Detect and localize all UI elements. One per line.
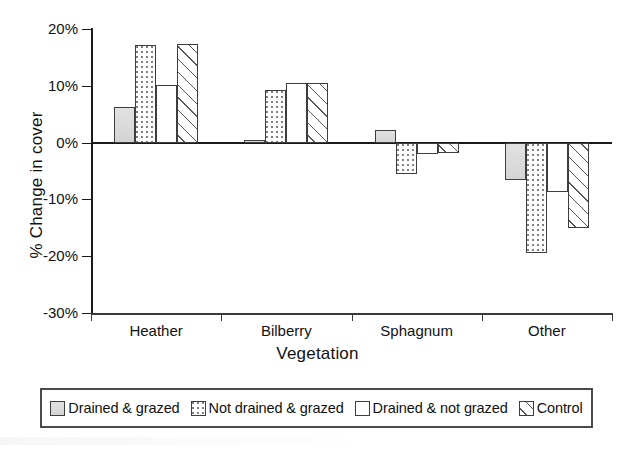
legend-item[interactable]: Drained & grazed: [50, 400, 179, 416]
legend-swatch-icon: [191, 401, 206, 416]
x-axis-tick: [221, 313, 222, 321]
bar: [547, 143, 568, 192]
y-axis-title: % Change in cover: [27, 70, 47, 300]
y-axis-tick-label: 0%: [6, 134, 78, 151]
y-axis-tick: [82, 143, 91, 144]
bar: [156, 85, 177, 143]
legend-swatch-icon: [355, 401, 370, 416]
bar: [438, 143, 459, 154]
x-axis-tick: [352, 313, 353, 321]
y-axis-tick-label: 10%: [6, 77, 78, 94]
figure-bar-chart: % Change in cover 20%10%0%-10%-20%-30% H…: [0, 0, 635, 452]
bar: [135, 45, 156, 143]
legend-item[interactable]: Not drained & grazed: [191, 400, 344, 416]
legend-label: Control: [537, 400, 583, 416]
scan-artifact: [0, 437, 635, 445]
y-axis-tick: [82, 86, 91, 87]
x-axis-tick: [612, 313, 613, 321]
bar: [177, 44, 198, 142]
chart-plot-area: % Change in cover 20%10%0%-10%-20%-30% H…: [0, 0, 635, 378]
y-axis-line: [91, 28, 93, 315]
y-axis-tick: [82, 313, 91, 314]
legend-label: Not drained & grazed: [209, 400, 344, 416]
y-axis-tick: [82, 29, 91, 30]
bar: [114, 107, 135, 142]
x-axis-tick: [91, 313, 92, 321]
x-axis-category-label: Sphagnum: [352, 322, 482, 339]
bar: [244, 140, 265, 143]
legend-label: Drained & grazed: [68, 400, 179, 416]
x-axis-category-label: Bilberry: [221, 322, 351, 339]
bar: [417, 143, 438, 154]
x-axis-category-label: Heather: [91, 322, 221, 339]
y-axis-tick-label: -30%: [6, 304, 78, 321]
bar: [375, 130, 396, 143]
bar: [526, 143, 547, 254]
legend-swatch-icon: [50, 401, 65, 416]
bar: [265, 90, 286, 143]
bar: [307, 83, 328, 143]
bar: [568, 143, 589, 229]
y-axis-tick: [82, 256, 91, 257]
y-axis-tick-label: -20%: [6, 247, 78, 264]
chart-legend: Drained & grazedNot drained & grazedDrai…: [40, 388, 593, 428]
legend-item[interactable]: Control: [519, 400, 583, 416]
y-axis-tick-label: -10%: [6, 190, 78, 207]
legend-label: Drained & not grazed: [373, 400, 508, 416]
y-axis-tick-label: 20%: [6, 20, 78, 37]
bar: [396, 143, 417, 174]
legend-swatch-icon: [519, 401, 534, 416]
x-axis-category-label: Other: [482, 322, 612, 339]
y-axis-tick: [82, 199, 91, 200]
bar: [286, 83, 307, 143]
x-axis-title: Vegetation: [0, 344, 635, 364]
bar: [505, 143, 526, 180]
legend-item[interactable]: Drained & not grazed: [355, 400, 508, 416]
x-axis-tick: [482, 313, 483, 321]
